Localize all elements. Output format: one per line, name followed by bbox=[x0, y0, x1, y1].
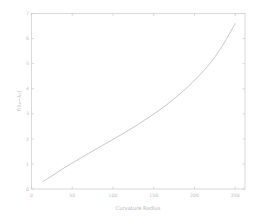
y-axis-label: f(λ₀−λ₁) bbox=[16, 91, 22, 112]
x-tick-label: 0 bbox=[30, 193, 33, 198]
y-tick-label: 4 bbox=[26, 86, 29, 91]
y-tick-label: 0 bbox=[26, 187, 29, 192]
x-tick-label: 50 bbox=[69, 193, 75, 198]
x-tick-label: 200 bbox=[190, 193, 199, 198]
y-tick-label: 6 bbox=[26, 36, 29, 41]
chart-figure: 050100150200250 01234567 Curvature Radiu… bbox=[0, 0, 262, 223]
y-tick-label: 2 bbox=[26, 137, 29, 142]
y-tick-label: 1 bbox=[26, 162, 29, 167]
x-tick-label: 100 bbox=[109, 193, 118, 198]
y-tick-label: 7 bbox=[26, 11, 29, 16]
chart-background bbox=[0, 0, 262, 223]
x-tick-label: 250 bbox=[231, 193, 240, 198]
x-tick-label: 150 bbox=[149, 193, 158, 198]
line-chart: 050100150200250 01234567 Curvature Radiu… bbox=[0, 0, 262, 223]
y-tick-label: 3 bbox=[26, 111, 29, 116]
y-tick-label: 5 bbox=[26, 61, 29, 66]
x-axis-label: Curvature Radius bbox=[116, 205, 161, 211]
